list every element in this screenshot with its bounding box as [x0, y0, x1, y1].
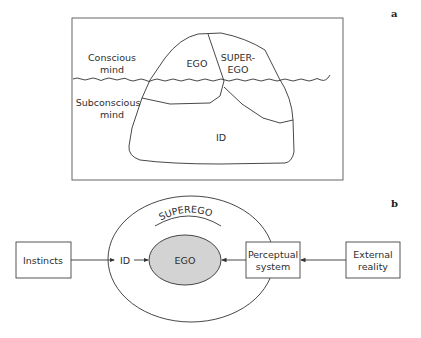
conscious-label-1: Conscious [88, 52, 136, 63]
iceberg-ego-label: EGO [187, 58, 208, 69]
panel-b-label: b [391, 198, 398, 209]
perceptual-label-1: Perceptual [248, 249, 298, 260]
external-reality-box [346, 242, 400, 278]
perceptual-system-box [246, 242, 300, 278]
panel-a: a Conscious mind Subconscious mind EGO S… [72, 8, 398, 180]
iceberg-superego-label-1: SUPER- [221, 52, 255, 63]
panel-b: b SUPEREGO EGO ID Instincts Perceptual s… [16, 196, 400, 322]
conscious-label-2: mind [100, 64, 124, 75]
subconscious-label-1: Subconscious [76, 97, 141, 108]
panel-a-label: a [391, 8, 398, 19]
external-label-1: External [353, 249, 392, 260]
subconscious-label-2: mind [100, 109, 124, 120]
id-label: ID [120, 255, 130, 266]
instincts-label: Instincts [23, 255, 63, 266]
freud-mind-diagram: a Conscious mind Subconscious mind EGO S… [0, 0, 421, 338]
external-label-2: reality [358, 261, 388, 272]
iceberg-superego-label-2: EGO [228, 64, 249, 75]
iceberg-outline [129, 33, 294, 164]
ego-label: EGO [175, 255, 196, 266]
perceptual-label-2: system [256, 261, 290, 272]
iceberg-id-label: ID [216, 132, 226, 143]
superego-label: SUPEREGO [157, 204, 214, 223]
